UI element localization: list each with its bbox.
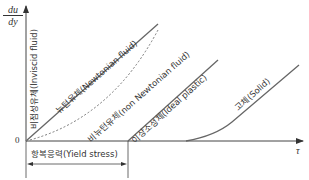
y-label-denominator: dy [3, 16, 23, 27]
yield-stress-label: 항복응력(Yield stress) [31, 147, 118, 159]
y-label-numerator: du [3, 4, 23, 16]
origin-label: 0 [15, 135, 20, 145]
inviscid-label: 비점성유체(Inviscid fluid) [27, 9, 39, 149]
y-axis-label: du dy [3, 4, 23, 27]
x-axis-label: τ [296, 145, 300, 156]
